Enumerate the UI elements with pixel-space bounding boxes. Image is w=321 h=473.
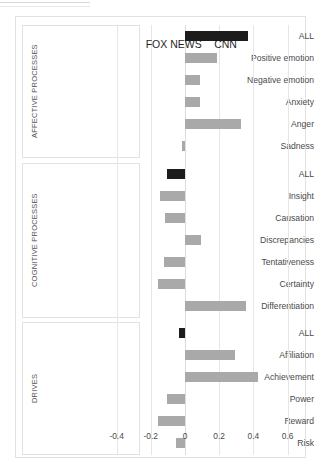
bar-cognitive-all bbox=[167, 169, 185, 179]
gridline-0p4 bbox=[253, 25, 254, 455]
bar-cognitive-certainty bbox=[158, 279, 185, 289]
x-tick-label-4: 0.4 bbox=[235, 431, 271, 441]
bar-drives-reward bbox=[158, 416, 185, 426]
bar-affective-anxiety bbox=[185, 97, 200, 107]
bar-cognitive-insight bbox=[160, 191, 185, 201]
bar-drives-affiliation bbox=[185, 350, 235, 360]
gridline-neg0p4 bbox=[117, 25, 118, 455]
bar-affective-sadness bbox=[182, 141, 185, 151]
x-tick-label-2: 0 bbox=[167, 431, 203, 441]
group-title-affective: AFFECTIVE PROCESSES bbox=[23, 26, 45, 157]
gridline-0p2 bbox=[219, 25, 220, 455]
annotation-fox-news: FOX NEWS bbox=[146, 38, 202, 50]
group-box-affective: AFFECTIVE PROCESSES bbox=[22, 25, 140, 158]
bar-affective-positive-emotion bbox=[185, 53, 217, 63]
plot-area: FOX NEWS CNN bbox=[140, 25, 296, 455]
bar-drives-power bbox=[167, 394, 185, 404]
x-tick-label-5: 0.6 bbox=[270, 431, 306, 441]
x-tick-label-0: -0.4 bbox=[99, 431, 135, 441]
gridline-neg0p2 bbox=[151, 25, 152, 455]
bar-cognitive-causation bbox=[165, 213, 185, 223]
bar-affective-anger bbox=[185, 119, 241, 129]
category-label-all: ALL bbox=[299, 322, 314, 344]
group-title-cognitive: COGNITIVE PROCESSES bbox=[23, 164, 45, 317]
category-label-all: ALL bbox=[299, 163, 314, 185]
annotation-cnn: CNN bbox=[214, 38, 237, 50]
group-title-drives: DRIVES bbox=[23, 323, 45, 454]
top-edge-artifact bbox=[0, 2, 90, 7]
category-label-all: ALL bbox=[299, 25, 314, 47]
bar-cognitive-discrepancies bbox=[185, 235, 201, 245]
bar-drives-achievement bbox=[185, 372, 258, 382]
group-box-cognitive: COGNITIVE PROCESSES bbox=[22, 163, 140, 318]
bar-cognitive-differentiation bbox=[185, 301, 246, 311]
gridline-0p6 bbox=[288, 25, 289, 455]
bar-drives-all bbox=[179, 328, 185, 338]
x-tick-label-3: 0.2 bbox=[201, 431, 237, 441]
bar-affective-negative-emotion bbox=[185, 75, 200, 85]
bar-cognitive-tentativeness bbox=[164, 257, 185, 267]
bar-chart: AFFECTIVE PROCESSES COGNITIVE PROCESSES … bbox=[0, 0, 321, 473]
x-tick-label-1: -0.2 bbox=[133, 431, 169, 441]
